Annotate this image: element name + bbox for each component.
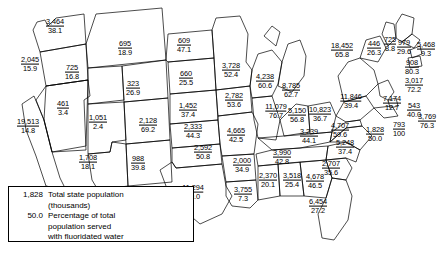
legend-percent-desc: Percentage of total [43,211,115,222]
state-percent-id: 16.8 [65,73,79,81]
state-percent-wv: 50.0 [366,135,384,143]
state-percent-ri: 80.3 [405,68,419,76]
state-label-dc: 793100 [393,121,405,138]
state-percent-sc: 35.6 [322,169,340,177]
state-label-az: 1,70818.1 [79,154,97,171]
fluoridation-map-figure: 3,46438.12,04515.972516.869518.960947.16… [0,0,445,269]
state-label-oh: 10,82336.7 [309,106,331,123]
state-percent-az: 18.1 [79,163,97,171]
state-percent-ms: 20.1 [259,181,277,189]
state-label-mo: 4,66542.5 [227,127,245,144]
state-label-ne: 1,45237.4 [179,102,197,119]
state-label-me: 7258.8 [384,36,396,53]
state-label-ms: 2,37020.1 [259,172,277,189]
state-percent-ky: 44.1 [300,137,318,145]
state-percent-al: 25.4 [283,181,301,189]
state-label-nm: 98839.8 [131,155,145,172]
state-label-wy: 32326.9 [126,80,140,97]
state-percent-ia: 53.6 [225,101,243,109]
state-label-al: 3,51825.4 [283,172,301,189]
state-percent-la: 7.3 [234,195,252,203]
legend-percent-desc-3: with fluoridated water [13,232,189,243]
legend-population-row: 1,828 Total state population [13,190,189,201]
state-label-in: 5,15056.8 [288,107,306,124]
legend-percent-desc-2: population served [13,222,189,233]
state-label-ut: 1,0512.4 [89,114,107,131]
state-percent-tn: 42.8 [273,158,291,166]
state-percent-ok: 50.8 [194,153,212,161]
state-label-mn: 3,72852.4 [222,62,240,79]
legend-population-desc: Total state population [43,190,124,201]
state-percent-mo: 42.5 [227,136,245,144]
state-label-co: 2,12869.2 [139,117,157,134]
state-label-va: 4,70759.6 [331,122,349,139]
state-percent-in: 56.8 [288,116,306,124]
state-label-fl: 6,45427.2 [309,198,327,215]
state-percent-ne: 37.4 [179,111,197,119]
state-percent-vt: 26.3 [367,49,381,57]
state-label-mi: 8,78562.7 [282,82,300,99]
state-percent-pa: 39.4 [340,102,361,110]
state-label-nc: 5,24837.4 [336,139,354,156]
state-percent-ca: 14.8 [17,127,39,135]
state-label-la: 3,7557.3 [234,186,252,203]
state-label-nv: 4613.4 [57,100,69,117]
state-label-wv: 1,82850.0 [366,126,384,143]
state-percent-mn: 52.4 [222,71,240,79]
state-label-or: 2,04515.9 [21,56,39,73]
state-percent-nc: 37.4 [336,148,354,156]
state-percent-oh: 36.7 [309,115,331,123]
legend-population-units: (thousands) [13,201,189,212]
state-percent-fl: 27.2 [309,207,327,215]
state-percent-or: 15.9 [21,65,39,73]
state-percent-il: 76.7 [265,112,286,120]
state-label-ok: 2,59250.8 [194,144,212,161]
state-percent-mi: 62.7 [282,91,300,99]
state-percent-wi: 60.6 [256,82,274,90]
state-percent-sd: 25.5 [179,79,193,87]
state-percent-co: 69.2 [139,126,157,134]
state-percent-dc: 100 [393,130,405,138]
state-percent-me: 8.8 [384,45,396,53]
state-label-ma: 5,4689.3 [417,41,435,58]
state-label-pa: 11,84639.4 [340,93,361,110]
state-label-ia: 2,78253.6 [225,92,243,109]
state-label-nd: 60947.1 [177,37,191,54]
state-percent-ut: 2.4 [89,123,107,131]
state-percent-va: 59.6 [331,131,349,139]
legend: 1,828 Total state population (thousands)… [8,186,194,242]
state-percent-nd: 47.1 [177,46,191,54]
state-label-ks: 2,33344.3 [184,123,202,140]
state-label-tn: 3,99042.8 [273,149,291,166]
state-percent-ga: 46.5 [306,182,324,190]
state-label-nj: 7,17412.7 [383,95,401,112]
state-label-sd: 66025.5 [179,70,193,87]
state-percent-nh: 29.6 [397,48,411,56]
state-percent-ks: 44.3 [184,132,202,140]
legend-percent-row: 50.0 Percentage of total [13,211,189,222]
state-percent-ny: 65.8 [331,51,353,59]
state-percent-nm: 39.8 [131,164,145,172]
state-percent-ma: 9.3 [417,50,435,58]
state-label-md: 3,76976.3 [418,113,436,130]
state-label-ca: 19,51314.8 [17,118,39,135]
state-percent-md: 76.3 [418,122,436,130]
state-label-id: 72516.8 [65,64,79,81]
state-label-wi: 4,23860.6 [256,73,274,90]
state-percent-wa: 38.1 [46,27,64,35]
state-label-ct: 3,01772.2 [405,77,423,94]
state-label-ny: 18,45265.8 [331,42,353,59]
state-label-ar: 2,00034.9 [233,157,251,174]
state-percent-nv: 3.4 [57,109,69,117]
state-percent-nj: 12.7 [383,104,401,112]
state-label-sc: 2,70735.6 [322,160,340,177]
state-percent-ar: 34.9 [233,166,251,174]
state-label-ri: 90880.3 [405,59,419,76]
legend-population-value: 1,828 [13,190,43,201]
state-percent-ct: 72.2 [405,86,423,94]
legend-percent-value: 50.0 [13,211,43,222]
state-label-ky: 3,23944.1 [300,128,318,145]
state-label-mt: 69518.9 [118,40,132,57]
state-percent-mt: 18.9 [118,49,132,57]
state-label-wa: 3,46438.1 [46,18,64,35]
